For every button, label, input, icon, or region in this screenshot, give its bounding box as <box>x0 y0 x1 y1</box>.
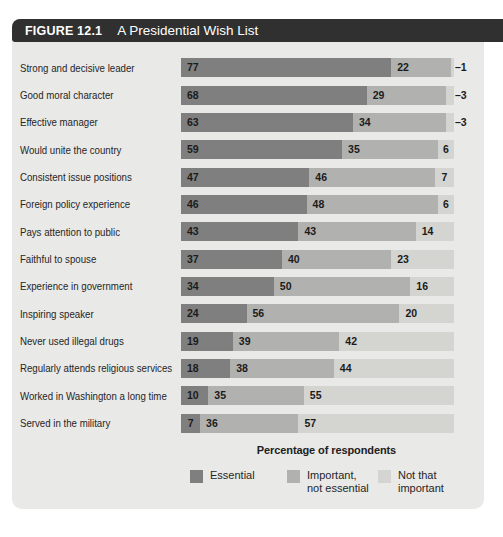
legend-label: Important,not essential <box>307 469 369 496</box>
value-label: 35 <box>208 386 304 405</box>
value-label: 44 <box>334 359 454 378</box>
category-label: Pays attention to public <box>12 226 161 238</box>
stacked-bar: 6829–3 <box>181 86 454 105</box>
chart-row: Served in the military73657 <box>12 409 484 436</box>
legend-label: Essential <box>210 469 255 496</box>
bar-segment-not-that-important: 6 <box>438 195 454 214</box>
legend-item-not-that-important: Not thatimportant <box>378 469 444 496</box>
bar-segment-important-not-essential: 39 <box>233 332 339 351</box>
stacked-bar: 245620 <box>181 304 454 323</box>
value-label: 48 <box>307 195 438 214</box>
value-label: 20 <box>399 304 454 323</box>
outside-value-label: –1 <box>455 58 467 77</box>
stacked-bar: 7722–1 <box>181 58 454 77</box>
bar-segment-important-not-essential: 34 <box>353 113 446 132</box>
bar-segment-important-not-essential: 36 <box>200 414 298 433</box>
value-label: 46 <box>181 195 307 214</box>
chart-row: Strong and decisive leader7722–1 <box>12 54 484 81</box>
bar-segment-essential: 24 <box>181 304 247 323</box>
bar-segment-important-not-essential: 56 <box>247 304 400 323</box>
bar-segment-not-that-important: 55 <box>304 386 454 405</box>
bar-segment-essential: 43 <box>181 222 298 241</box>
bar-segment-important-not-essential: 35 <box>208 386 304 405</box>
bar-segment-not-that-important: 14 <box>416 222 454 241</box>
bar-segment-essential: 63 <box>181 113 353 132</box>
bar-segment-not-that-important: 44 <box>334 359 454 378</box>
value-label: 19 <box>181 332 233 351</box>
category-label: Regularly attends religious services <box>12 362 161 374</box>
stacked-bar: 73657 <box>181 414 454 433</box>
value-label: 18 <box>181 359 230 378</box>
value-label: 39 <box>233 332 339 351</box>
bar-segment-important-not-essential: 48 <box>307 195 438 214</box>
category-label: Strong and decisive leader <box>12 62 161 74</box>
legend-item-important-not-essential: Important,not essential <box>287 469 378 496</box>
bar-segment-essential: 46 <box>181 195 307 214</box>
value-label: 10 <box>181 386 208 405</box>
value-label: 63 <box>181 113 353 132</box>
value-label: 38 <box>230 359 334 378</box>
value-label: 50 <box>274 277 411 296</box>
value-label: 14 <box>416 222 454 241</box>
bar-segment-essential: 59 <box>181 140 342 159</box>
outside-value-label: –3 <box>455 86 467 105</box>
bar-segment-important-not-essential: 29 <box>367 86 446 105</box>
value-label: 34 <box>181 277 274 296</box>
value-label: 7 <box>435 168 454 187</box>
bar-segment-essential: 19 <box>181 332 233 351</box>
bar-segment-essential: 77 <box>181 58 391 77</box>
stacked-bar: 59356 <box>181 140 454 159</box>
value-label: 42 <box>339 332 454 351</box>
value-label: 43 <box>298 222 415 241</box>
value-label: 55 <box>304 386 454 405</box>
bar-segment-not-that-important: 16 <box>410 277 454 296</box>
category-label: Foreign policy experience <box>12 198 161 210</box>
chart-row: Effective manager6334–3 <box>12 109 484 136</box>
stacked-bar: 103555 <box>181 386 454 405</box>
bar-segment-not-that-important: 6 <box>438 140 454 159</box>
value-label: 36 <box>200 414 298 433</box>
value-label: 77 <box>181 58 391 77</box>
value-label: 6 <box>438 195 454 214</box>
bar-segment-not-that-important <box>446 86 454 105</box>
category-label: Would unite the country <box>12 144 161 156</box>
bar-segment-essential: 34 <box>181 277 274 296</box>
value-label: 7 <box>181 414 200 433</box>
bar-segment-essential: 68 <box>181 86 367 105</box>
stacked-bar: 6334–3 <box>181 113 454 132</box>
chart-row: Never used illegal drugs193942 <box>12 327 484 354</box>
value-label: 22 <box>391 58 451 77</box>
legend-label: Not thatimportant <box>398 469 444 496</box>
value-label: 56 <box>247 304 400 323</box>
category-label: Good moral character <box>12 89 161 101</box>
chart-row: Regularly attends religious services1838… <box>12 355 484 382</box>
bar-segment-not-that-important <box>446 113 454 132</box>
bar-segment-important-not-essential: 50 <box>274 277 411 296</box>
value-label: 40 <box>282 250 391 269</box>
legend-swatch <box>287 470 300 483</box>
legend-swatch <box>190 470 203 483</box>
bar-segment-important-not-essential: 46 <box>309 168 435 187</box>
value-label: 47 <box>181 168 309 187</box>
figure-number: FIGURE 12.1 <box>25 24 102 38</box>
stacked-bar: 183844 <box>181 359 454 378</box>
chart-row: Worked in Washington a long time103555 <box>12 382 484 409</box>
category-label: Never used illegal drugs <box>12 335 161 347</box>
legend-swatch <box>378 470 391 483</box>
chart-row: Good moral character6829–3 <box>12 81 484 108</box>
stacked-bar: 374023 <box>181 250 454 269</box>
value-label: 43 <box>181 222 298 241</box>
value-label: 6 <box>438 140 454 159</box>
stacked-bar: 434314 <box>181 222 454 241</box>
bar-segment-important-not-essential: 22 <box>391 58 451 77</box>
outside-value-label: –3 <box>455 113 467 132</box>
chart-row: Foreign policy experience46486 <box>12 191 484 218</box>
legend-item-essential: Essential <box>190 469 287 496</box>
bar-segment-not-that-important: 42 <box>339 332 454 351</box>
stacked-bar: 47467 <box>181 168 454 187</box>
legend: EssentialImportant,not essentialNot that… <box>190 469 484 496</box>
category-label: Served in the military <box>12 417 161 429</box>
bar-segment-important-not-essential: 43 <box>298 222 415 241</box>
chart-row: Faithful to spouse374023 <box>12 245 484 272</box>
value-label: 59 <box>181 140 342 159</box>
